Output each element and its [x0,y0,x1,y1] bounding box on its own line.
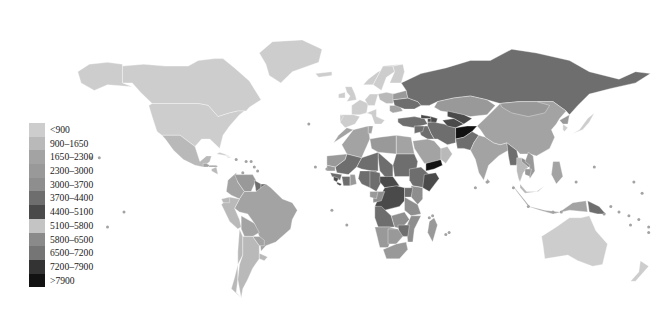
legend-label: 1650–2300 [50,150,93,164]
legend-label: 7200–7900 [50,260,93,274]
legend-swatch [29,260,45,274]
legend-item: >7900 [29,274,125,288]
legend-swatch [29,274,45,288]
island-marker [627,214,630,217]
legend-label: >7900 [50,274,75,288]
island-marker [647,226,650,229]
island-marker [486,181,489,184]
legend-swatch [29,233,45,247]
legend-swatch [29,219,45,233]
legend-item: 2300–3000 [29,164,125,178]
island-marker [552,211,555,214]
legend-item: 900–1650 [29,137,125,151]
legend-item: 3700–4400 [29,191,125,205]
island-marker [448,231,451,234]
island-marker [314,166,317,169]
island-marker [637,218,640,221]
legend-label: 900–1650 [50,137,88,151]
island-marker [593,166,596,169]
island-marker [235,158,238,161]
island-marker [474,186,477,189]
legend-label: 3700–4400 [50,191,93,205]
island-marker [609,205,612,208]
island-marker [241,171,244,174]
legend-label: 2300–3000 [50,164,93,178]
country-region [428,119,431,123]
island-marker [256,169,259,172]
island-marker [618,211,621,214]
country-region [208,165,218,167]
legend-item: 6500–7200 [29,246,125,260]
island-marker [245,160,248,163]
legend-label: <900 [50,123,70,137]
country-region [342,177,350,186]
legend-swatch [29,178,45,192]
legend-swatch [29,246,45,260]
island-marker [325,168,328,171]
legend-item: 5100–5800 [29,219,125,233]
island-marker [330,209,333,212]
legend-item: 3000–3700 [29,178,125,192]
legend-item: 7200–7900 [29,260,125,274]
choropleth-figure: <900900–16501650–23002300–30003000–37003… [0,0,658,329]
legend-item: 4400–5100 [29,205,125,219]
island-marker [629,224,632,227]
island-marker [253,166,256,169]
legend-swatch [29,123,45,137]
legend-label: 5100–5800 [50,219,93,233]
legend-label: 3000–3700 [50,178,93,192]
island-marker [603,212,606,215]
legend-swatch [29,150,45,164]
island-marker [527,205,530,208]
legend-label: 6500–7200 [50,246,93,260]
island-marker [641,192,644,195]
island-marker [560,211,563,214]
legend-label: 5800–6500 [50,233,93,247]
island-marker [431,214,434,217]
island-marker [307,123,310,126]
island-marker [345,224,348,227]
island-marker [647,231,650,234]
island-marker [512,186,515,189]
island-marker [575,181,578,184]
map-legend: <900900–16501650–23002300–30003000–37003… [29,123,125,287]
legend-item: 1650–2300 [29,150,125,164]
legend-swatch [29,205,45,219]
legend-swatch [29,164,45,178]
island-marker [428,216,431,219]
island-marker [632,181,635,184]
island-marker [250,160,253,163]
legend-swatch [29,191,45,205]
legend-label: 4400–5100 [50,205,93,219]
island-marker [444,233,447,236]
legend-item: 5800–6500 [29,233,125,247]
legend-item: <900 [29,123,125,137]
legend-swatch [29,137,45,151]
